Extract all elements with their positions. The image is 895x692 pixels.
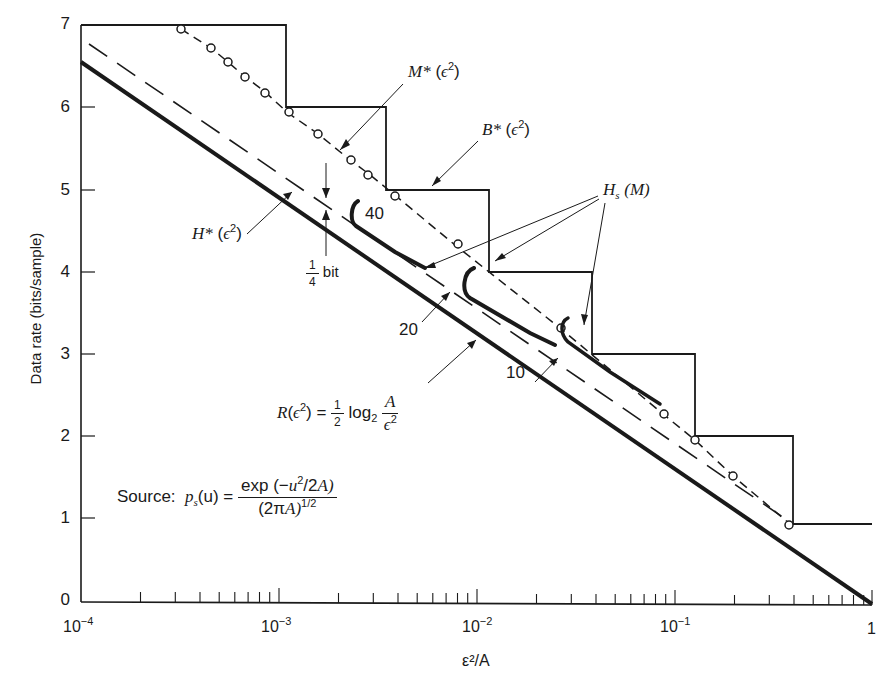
annotation-h-star: H* (ϵ2) [192,224,242,244]
m-star-markers [177,25,793,529]
x-tick-1e-3: 10−3 [261,618,291,636]
annotation-b-star: B* (ϵ2) [482,120,530,140]
x-tick-1e-4: 10−4 [63,618,93,636]
x-tick-1e-2: 10−2 [462,618,492,636]
annotation-m40: 40 [365,204,384,224]
y-tick-7: 7 [50,14,70,34]
annotation-quarter-bit: 14 bit [306,258,339,289]
annotation-m10: 10 [506,363,525,383]
series-b-star-staircase [81,25,872,524]
y-tick-1: 1 [50,508,70,528]
y-axis-label: Data rate (bits/sample) [27,229,44,389]
series-h-star [89,44,790,522]
y-tick-5: 5 [50,180,70,200]
annotation-source-formula: Source: ps(u) = exp (−u2/2A)(2πA)1/2 [117,476,337,519]
y-tick-3: 3 [50,344,70,364]
annotation-m20: 20 [399,320,418,340]
y-ticks [81,107,95,518]
series-m-star [181,29,790,524]
annotation-r-formula: R(ϵ2) = 12 log2 Aϵ2 [277,392,398,435]
arrowheads [283,139,588,366]
annotation-m-star: M* (ϵ2) [408,62,460,82]
annotation-leaders [247,84,605,383]
y-tick-0: 0 [50,590,70,610]
y-tick-4: 4 [50,262,70,282]
hs-curve-40 [352,201,425,268]
chart-canvas [0,0,895,692]
annotation-hs-m: Hs (M) [603,180,650,200]
hs-curve-10 [562,318,660,404]
y-tick-2: 2 [50,426,70,446]
x-tick-1: 1 [867,620,876,638]
x-axis-label: ε²/A [462,652,490,670]
x-tick-1e-1: 10−1 [660,618,690,636]
series-r-epsilon [81,62,872,604]
y-tick-6: 6 [50,97,70,117]
